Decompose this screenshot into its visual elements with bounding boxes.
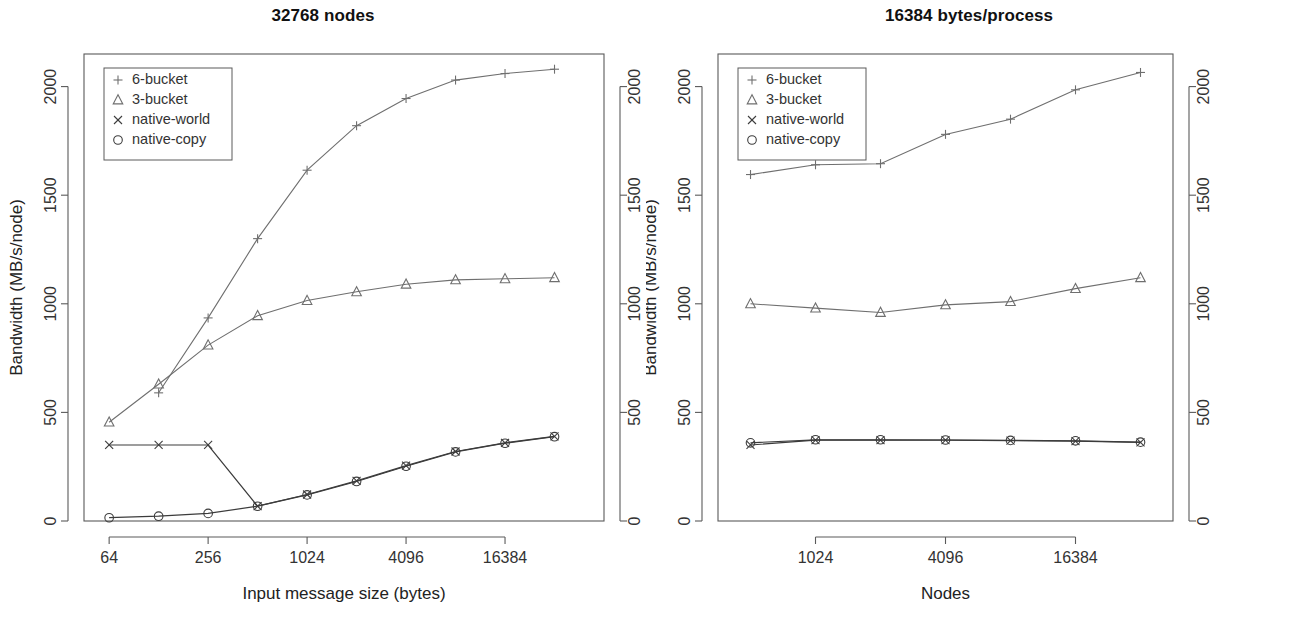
series-line-3-bucket — [109, 278, 554, 423]
y-tick-label: 500 — [42, 399, 59, 426]
series-line-native-copy — [109, 437, 554, 518]
y-tick-label: 500 — [676, 399, 693, 426]
x-axis-title: Input message size (bytes) — [242, 584, 445, 603]
x-tick-label: 256 — [195, 549, 222, 566]
marker-plus — [811, 160, 820, 169]
marker-plus — [941, 130, 950, 139]
marker-plus — [1136, 68, 1145, 77]
marker-plus — [204, 313, 213, 322]
plot-left: 642561024409616384Input message size (by… — [0, 0, 646, 626]
y-tick-label: 0 — [1195, 516, 1212, 525]
marker-triangle — [550, 273, 560, 282]
legend-label: native-world — [766, 111, 844, 127]
x-tick-label: 4096 — [928, 549, 964, 566]
figure-container: 32768 nodes 642561024409616384Input mess… — [0, 0, 1292, 626]
marker-triangle — [451, 275, 461, 284]
marker-plus — [253, 234, 262, 243]
x-tick-label: 64 — [100, 549, 118, 566]
legend-label: native-copy — [132, 131, 207, 147]
series-line-3-bucket — [751, 278, 1141, 313]
y-tick-label: 1500 — [42, 177, 59, 213]
marker-plus — [1006, 115, 1015, 124]
marker-plus — [501, 69, 510, 78]
legend-label: 6-bucket — [132, 71, 188, 87]
x-tick-label: 1024 — [289, 549, 325, 566]
x-tick-label: 4096 — [388, 549, 424, 566]
series-line-native-copy — [751, 440, 1141, 443]
marker-triangle — [746, 299, 756, 308]
y-tick-label: 2000 — [1195, 69, 1212, 105]
y-tick-label: 0 — [42, 516, 59, 525]
y-tick-label: 0 — [626, 516, 643, 525]
marker-plus — [1071, 85, 1080, 94]
y-tick-label: 1000 — [42, 286, 59, 322]
y-tick-label: 0 — [676, 516, 693, 525]
y-tick-label: 1500 — [676, 177, 693, 213]
y-axis-title: Bandwidth (MB/s/node) — [646, 199, 660, 376]
y-tick-label: 2000 — [42, 69, 59, 105]
y-tick-label: 2000 — [626, 69, 643, 105]
marker-plus — [876, 159, 885, 168]
legend-label: 3-bucket — [766, 91, 822, 107]
legend-label: 6-bucket — [766, 71, 822, 87]
y-tick-label: 2000 — [676, 69, 693, 105]
legend-label: 3-bucket — [132, 91, 188, 107]
plot-right: 1024409616384Nodes0500100015002000050010… — [646, 0, 1292, 626]
y-tick-label: 1500 — [1195, 177, 1212, 213]
marker-triangle — [1136, 273, 1146, 282]
y-tick-label: 1000 — [1195, 286, 1212, 322]
marker-triangle — [500, 274, 510, 283]
y-tick-label: 1500 — [626, 177, 643, 213]
legend-label: native-world — [132, 111, 210, 127]
marker-plus — [746, 170, 755, 179]
y-tick-label: 1000 — [676, 286, 693, 322]
x-axis-title: Nodes — [921, 584, 970, 603]
legend-label: native-copy — [766, 131, 841, 147]
marker-plus — [402, 94, 411, 103]
x-tick-label: 1024 — [798, 549, 834, 566]
y-tick-label: 1000 — [626, 286, 643, 322]
panel-right: 16384 bytes/process 1024409616384Nodes05… — [646, 0, 1292, 626]
y-tick-label: 500 — [1195, 399, 1212, 426]
marker-plus — [550, 65, 559, 74]
x-tick-label: 16384 — [1053, 549, 1098, 566]
y-tick-label: 500 — [626, 399, 643, 426]
panel-left: 32768 nodes 642561024409616384Input mess… — [0, 0, 646, 626]
marker-plus — [154, 388, 163, 397]
x-tick-label: 16384 — [483, 549, 528, 566]
marker-plus — [451, 76, 460, 85]
y-axis-title: Bandwidth (MB/s/node) — [7, 199, 26, 376]
